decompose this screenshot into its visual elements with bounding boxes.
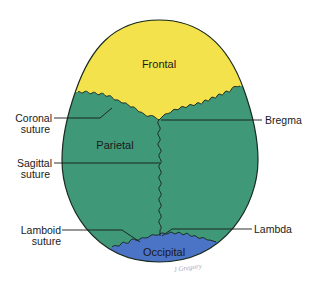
lambda-label: Lambda <box>254 223 292 235</box>
frontal-label: Frontal <box>142 58 176 70</box>
parietal-label: Parietal <box>96 139 133 151</box>
bregma-label: Bregma <box>265 114 302 126</box>
skull-diagram: Frontal Parietal Occipital Coronal sutur… <box>0 0 318 285</box>
occipital-label: Occipital <box>143 246 185 258</box>
coronal-label-line2: suture <box>21 123 50 135</box>
signature: J Gregory <box>173 262 203 274</box>
sagittal-label-line2: suture <box>21 168 50 180</box>
lamboid-label-line2: suture <box>32 235 61 247</box>
